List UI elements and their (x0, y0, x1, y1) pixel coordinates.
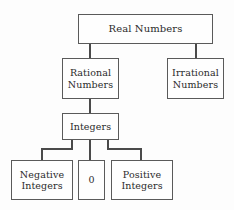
node-irrational-numbers-label-line1: Irrational (172, 67, 219, 78)
node-rational-numbers-label-line1: Rational (70, 67, 111, 78)
node-irrational-numbers[interactable]: Irrational Numbers (167, 58, 224, 99)
node-integers[interactable]: Integers (62, 113, 119, 140)
node-irrational-numbers-label-line2: Numbers (173, 79, 218, 90)
node-real-numbers[interactable]: Real Numbers (78, 14, 213, 44)
node-negative-integers-label-line2: Integers (21, 180, 62, 191)
node-negative-integers-label-line1: Negative (20, 169, 64, 180)
node-real-numbers-label: Real Numbers (109, 23, 183, 35)
node-negative-integers[interactable]: Negative Integers (11, 160, 73, 200)
node-positive-integers-label-line1: Positive (123, 169, 161, 180)
node-rational-numbers-label-line2: Numbers (68, 79, 113, 90)
node-integers-label: Integers (70, 121, 111, 132)
node-zero-label: 0 (88, 174, 94, 185)
node-zero[interactable]: 0 (78, 160, 105, 200)
node-rational-numbers[interactable]: Rational Numbers (62, 58, 119, 99)
diagram-root: Real Numbers Rational Numbers Irrational… (0, 0, 234, 210)
node-positive-integers[interactable]: Positive Integers (111, 160, 173, 200)
edge-integers-to-positive (108, 140, 141, 160)
edge-integers-to-negative (42, 140, 72, 160)
node-positive-integers-label-line2: Integers (121, 180, 162, 191)
